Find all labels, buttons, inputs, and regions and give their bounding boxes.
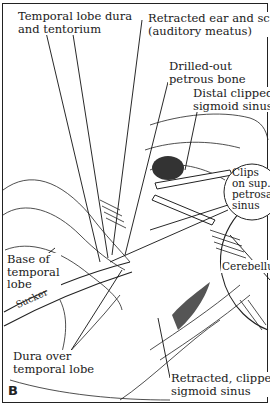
label-line: temporal lobe	[13, 363, 94, 376]
label-line: sinus	[232, 200, 270, 211]
label-line: Dura over	[13, 350, 94, 363]
label-retracted-sigmoid: Retracted, clipped sigmoid sinus	[170, 372, 270, 397]
label-line: sigmoid sinus	[171, 385, 270, 398]
label-line: Distal clipped	[193, 87, 270, 100]
label-temporal-lobe-dura: Temporal lobe dura and tentorium	[17, 10, 133, 35]
label-line: petrous bone	[169, 73, 246, 86]
label-line: Drilled-out	[169, 60, 246, 73]
label-distal-sigmoid: Distal clipped sigmoid sinus	[192, 87, 270, 112]
label-line: lobe	[7, 278, 60, 291]
label-line: (auditory meatus)	[148, 25, 270, 38]
panel-letter: B	[8, 383, 18, 398]
label-line: Retracted, clipped	[171, 372, 270, 385]
label-line: Cerebellum	[222, 260, 270, 273]
label-line: Base of	[7, 253, 60, 266]
label-line: sigmoid sinus	[193, 100, 270, 113]
label-cerebellum: Cerebellum	[221, 260, 270, 273]
label-line: and tentorium	[18, 23, 132, 36]
label-base-temporal: Base of temporal lobe	[6, 253, 61, 291]
label-dura-over-temporal: Dura over temporal lobe	[12, 350, 95, 375]
label-retracted-ear: Retracted ear and scalp (auditory meatus…	[147, 12, 270, 37]
label-line: Temporal lobe dura	[18, 10, 132, 23]
label-drilled-petrous: Drilled-out petrous bone	[168, 60, 247, 85]
label-clips-petrosal: Clips on sup. petrosal sinus	[232, 167, 270, 211]
label-line: Retracted ear and scalp	[148, 12, 270, 25]
